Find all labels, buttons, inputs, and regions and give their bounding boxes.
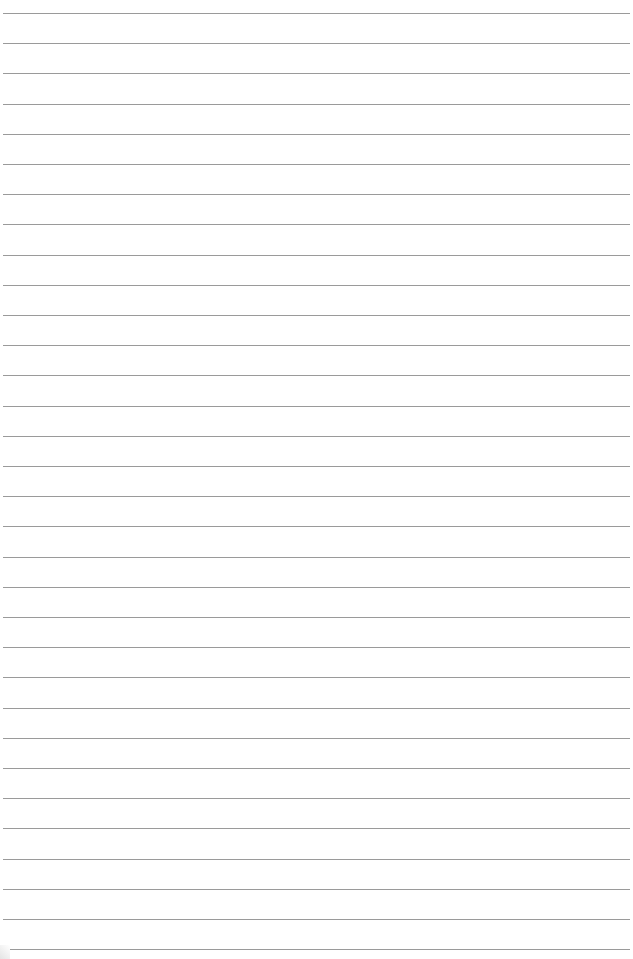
ruled-line <box>3 889 630 890</box>
ruled-line <box>3 496 630 497</box>
ruled-line <box>3 375 630 376</box>
ruled-line <box>3 949 630 950</box>
ruled-line <box>3 194 630 195</box>
ruled-line <box>3 345 630 346</box>
ruled-line <box>3 587 630 588</box>
ruled-line <box>3 466 630 467</box>
ruled-line <box>3 224 630 225</box>
ruled-line <box>3 557 630 558</box>
ruled-line <box>3 73 630 74</box>
ruled-line <box>3 798 630 799</box>
ruled-line <box>3 708 630 709</box>
lined-paper-page <box>0 0 633 959</box>
ruled-line <box>3 919 630 920</box>
ruled-line <box>3 43 630 44</box>
ruled-line <box>3 738 630 739</box>
ruled-line <box>3 647 630 648</box>
ruled-line <box>3 617 630 618</box>
ruled-line <box>3 285 630 286</box>
ruled-line <box>3 406 630 407</box>
ruled-line <box>3 13 630 14</box>
ruled-line <box>3 164 630 165</box>
ruled-line <box>3 315 630 316</box>
ruled-line <box>3 134 630 135</box>
ruled-line <box>3 436 630 437</box>
ruled-line <box>3 859 630 860</box>
ruled-line <box>3 768 630 769</box>
ruled-line <box>3 255 630 256</box>
ruled-line <box>3 677 630 678</box>
page-corner-shadow <box>0 945 10 959</box>
ruled-line <box>3 526 630 527</box>
ruled-line <box>3 828 630 829</box>
ruled-line <box>3 104 630 105</box>
